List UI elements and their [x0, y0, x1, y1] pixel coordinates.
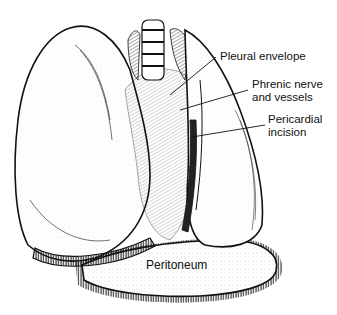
label-phrenic-nerve-and-vessels: Phrenic nerve and vessels	[252, 78, 323, 104]
trachea	[142, 20, 164, 80]
label-pleural-envelope: Pleural envelope	[220, 50, 306, 63]
label-peritoneum: Peritoneum	[146, 259, 207, 272]
label-pericardial-incision: Pericardial incision	[268, 113, 322, 139]
